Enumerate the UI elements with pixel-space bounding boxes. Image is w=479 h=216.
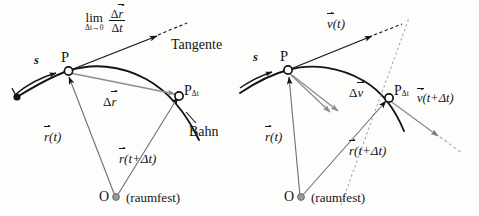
limit-denominator: Δt [109,21,125,34]
left-delta-r-vector [70,73,175,94]
right-r-of-t-plus-dt-label: r(t+Δt) [349,144,386,157]
right-r-vector-symbol: r [265,130,270,143]
left-r-of-t-argument: (t) [49,129,61,144]
left-r-tdt-argument: (t+Δt) [124,151,156,166]
left-tangent-dotted-extension [158,23,187,35]
right-construction-dotted-line [341,18,409,205]
bahn-label: Bahn [189,125,219,139]
right-point-pdt-marker [385,94,393,102]
limit-fraction: Δr Δt [109,8,125,34]
left-point-pdt-subscript: Δt [192,89,199,98]
tangente-label: Tangente [171,38,222,52]
right-point-pdt-subscript: Δt [402,89,409,98]
delta-r-vector-symbol: r [111,95,116,108]
right-point-p-label: P [280,49,288,64]
delta-v-vector-symbol: v [357,86,363,99]
delta-v-delta-symbol: Δ [349,85,357,100]
right-v-of-t-dotted-extension [374,24,402,35]
left-r-tdt-vector-symbol: r [119,152,124,165]
right-v-of-t-plus-dt-label: v(t+Δt) [417,92,454,105]
right-r-of-t-vector [289,77,300,196]
left-arc-length-label: s [34,54,39,67]
left-curve-start-dot [13,93,20,100]
v-of-t-vector-symbol: v [327,17,333,30]
left-r-of-t-plus-dt-label: r(t+Δt) [119,152,156,165]
right-r-of-t-argument: (t) [270,129,282,144]
left-origin-marker [113,194,120,201]
limit-operator-group: lim Δt→0 [85,11,104,32]
limit-expression: lim Δt→0 Δr Δt [85,8,125,34]
left-delta-r-label: Δr [103,95,116,108]
right-point-pdt-base: P [394,83,402,98]
right-r-of-t-label: r(t) [265,130,282,143]
right-origin-marker [298,194,305,201]
right-arc-length-label: s [253,51,258,64]
numerator-r-vector: r [119,8,124,20]
left-r-of-t-plus-dt-vector [117,97,178,196]
right-v-of-t-plus-dt-dotted-extension [440,137,462,153]
numerator-delta-symbol: Δ [111,7,119,21]
right-point-p-marker [284,66,292,74]
left-point-pdt-base: P [184,83,192,98]
limit-subscript: Δt→0 [85,24,104,32]
left-tangent-line [68,36,157,71]
left-r-of-t-label: r(t) [44,130,61,143]
right-v-of-t-vector [288,36,372,70]
right-arc-length-arrow [240,72,272,88]
v-tdt-vector-symbol: v [417,92,423,105]
right-panel-artwork [240,18,462,205]
right-v-of-t-label: v(t) [327,17,345,30]
limit-operator: lim [85,11,104,24]
left-bahn-leader-line [186,112,196,123]
delta-v-label: Δv [349,86,363,99]
left-origin-note: (raumfest) [126,191,180,204]
left-point-p-marker [64,67,72,75]
limit-numerator: Δr [109,8,125,21]
denominator-variable: t [119,21,122,35]
left-point-pdt-label: PΔt [184,84,199,98]
v-of-t-argument: (t) [333,16,345,31]
right-delta-v-vector [292,75,338,111]
left-origin-label: O [99,190,109,204]
left-r-vector-symbol: r [44,130,49,143]
right-r-tdt-vector-symbol: r [349,144,354,157]
right-origin-note: (raumfest) [311,191,365,204]
right-v-of-t-plus-dt-vector [389,100,438,136]
right-translated-v-vector-a [290,74,330,112]
v-tdt-argument: (t+Δt) [423,91,454,105]
left-arc-length-arrow [16,73,56,94]
right-r-tdt-argument: (t+Δt) [354,143,386,158]
physics-diagram-figure: lim Δt→0 Δr Δt Tangente s P PΔt Δr Bahn … [0,0,479,216]
diagram-artwork [0,0,479,216]
delta-r-delta-symbol: Δ [103,94,111,109]
left-point-pdt-marker [175,92,183,100]
right-origin-label: O [284,190,294,204]
left-point-p-label: P [61,50,69,65]
left-arc-length-tick [12,88,16,96]
right-point-pdt-label: PΔt [394,84,409,98]
